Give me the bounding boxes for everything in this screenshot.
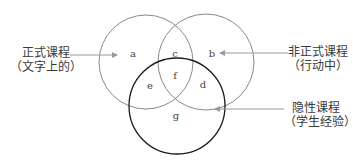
region-g: g — [173, 111, 179, 121]
region-e: e — [147, 81, 153, 91]
hidden-curriculum-title: 隐性课程 — [284, 101, 348, 115]
region-c: c — [172, 49, 178, 59]
hidden-curriculum-label: 隐性课程 （学生经验） — [284, 101, 348, 129]
informal-curriculum-title: 非正式课程 — [288, 45, 348, 59]
informal-curriculum-subtitle: （行动中） — [288, 59, 348, 73]
informal-curriculum-label: 非正式课程 （行动中） — [288, 45, 348, 73]
formal-curriculum-circle — [99, 15, 193, 109]
region-f: f — [173, 71, 177, 81]
hidden-curriculum-subtitle: （学生经验） — [284, 115, 348, 129]
region-b: b — [209, 49, 215, 59]
region-a: a — [130, 49, 136, 59]
formal-curriculum-label: 正式课程 （文字上的） — [18, 46, 74, 74]
venn-diagram — [0, 0, 353, 163]
region-d: d — [200, 80, 206, 90]
informal-curriculum-circle — [158, 14, 254, 110]
formal-curriculum-subtitle: （文字上的） — [10, 60, 74, 74]
formal-curriculum-title: 正式课程 — [18, 46, 74, 60]
